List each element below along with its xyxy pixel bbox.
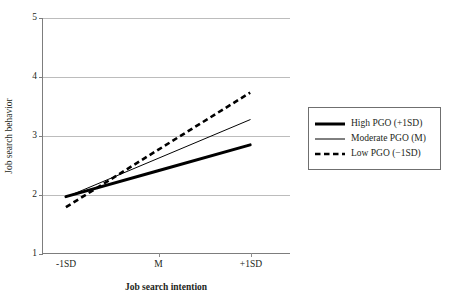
legend-swatch-dashed-icon: [315, 148, 345, 160]
x-axis-tick-label: +1SD: [240, 260, 262, 270]
y-axis-title: Job search behavior: [2, 18, 16, 254]
y-axis-tick-mark: [39, 254, 43, 255]
y-axis-tick-label: 3: [32, 131, 37, 141]
legend-label: Moderate PGO (M): [351, 134, 426, 144]
series-line-1: [66, 120, 250, 198]
y-axis-tick-label: 5: [32, 13, 37, 23]
legend: High PGO (+1SD)Moderate PGO (M)Low PGO (…: [308, 107, 441, 170]
x-axis-title: Job search intention: [42, 283, 290, 293]
y-axis-tick-label: 2: [32, 190, 37, 200]
figure-container: Job search behavior 54321 -1SDM+1SD Job …: [0, 0, 455, 306]
x-axis-tick-label: M: [154, 260, 162, 270]
x-axis-tick-mark: [159, 253, 160, 257]
series-line-0: [66, 145, 250, 197]
series-lines: [43, 18, 290, 253]
legend-item: Low PGO (−1SD): [315, 146, 433, 161]
y-axis-tick-label: 4: [32, 72, 37, 82]
legend-swatch-thin-solid-icon: [315, 133, 345, 145]
legend-item: Moderate PGO (M): [315, 131, 433, 146]
x-axis-tick-label: -1SD: [56, 260, 76, 270]
legend-swatch-thick-solid-icon: [315, 118, 345, 130]
legend-label: High PGO (+1SD): [351, 119, 422, 129]
legend-item: High PGO (+1SD): [315, 116, 433, 131]
y-axis-tick-label: 1: [32, 249, 37, 259]
legend-label: Low PGO (−1SD): [351, 149, 421, 159]
plot-area: 54321 -1SDM+1SD: [42, 18, 290, 254]
x-axis-tick-mark: [251, 253, 252, 257]
